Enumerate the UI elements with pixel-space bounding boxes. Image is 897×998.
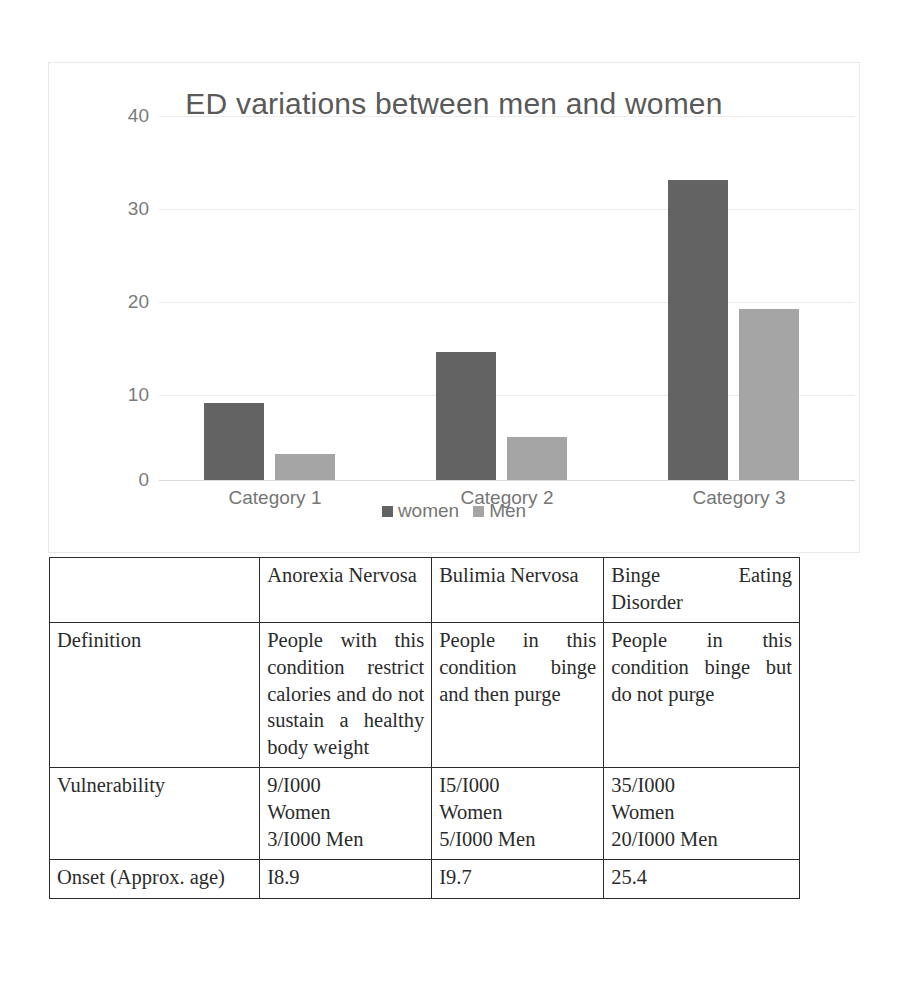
row-label-definition: Definition xyxy=(50,623,260,768)
legend-label-men: Men xyxy=(489,500,526,522)
vulnerability-binge-line-2: Women xyxy=(611,799,792,826)
bar-men-category-1 xyxy=(275,454,335,480)
vulnerability-anorexia-line-1: 9/I000 xyxy=(267,772,424,799)
y-tick-40: 40 xyxy=(89,105,149,127)
cell-definition-bulimia: People in this condition binge and then … xyxy=(432,623,604,768)
bar-women-category-1 xyxy=(204,403,264,480)
cell-onset-anorexia: I8.9 xyxy=(260,860,432,899)
gridline-40 xyxy=(159,116,855,117)
legend-label-women: women xyxy=(398,500,459,522)
bar-women-category-3 xyxy=(668,180,728,480)
eating-disorder-comparison-table: Anorexia Nervosa Bulimia Nervosa Binge E… xyxy=(49,557,800,899)
vulnerability-binge-line-1: 35/I000 xyxy=(611,772,792,799)
legend-swatch-men-icon xyxy=(473,506,484,517)
chart-panel: ED variations between men and women 0 10… xyxy=(48,62,860,553)
vulnerability-anorexia-line-2: Women xyxy=(267,799,424,826)
header-cell-bulimia: Bulimia Nervosa xyxy=(432,558,604,623)
table-row-onset: Onset (Approx. age) I8.9 I9.7 25.4 xyxy=(50,860,800,899)
bar-men-category-2 xyxy=(507,437,567,480)
table-row-definition: Definition People with this condition re… xyxy=(50,623,800,768)
table-row-vulnerability: Vulnerability 9/I000 Women 3/I000 Men I5… xyxy=(50,768,800,860)
cell-onset-binge: 25.4 xyxy=(604,860,800,899)
y-tick-10: 10 xyxy=(89,384,149,406)
cell-vulnerability-bulimia: I5/I000 Women 5/I000 Men xyxy=(432,768,604,860)
gridline-20 xyxy=(159,302,855,303)
y-tick-0: 0 xyxy=(89,469,149,491)
table-header-row: Anorexia Nervosa Bulimia Nervosa Binge E… xyxy=(50,558,800,623)
vulnerability-bulimia-line-2: Women xyxy=(439,799,596,826)
chart-legend: women Men xyxy=(49,500,859,522)
header-cell-blank xyxy=(50,558,260,623)
y-tick-20: 20 xyxy=(89,291,149,313)
cell-onset-bulimia: I9.7 xyxy=(432,860,604,899)
header-cell-binge: Binge Eating Disorder xyxy=(604,558,800,623)
gridline-30 xyxy=(159,209,855,210)
header-cell-anorexia: Anorexia Nervosa xyxy=(260,558,432,623)
y-axis: 0 10 20 30 40 xyxy=(79,115,149,480)
vulnerability-binge-line-3: 20/I000 Men xyxy=(611,826,792,853)
y-tick-30: 30 xyxy=(89,198,149,220)
vulnerability-bulimia-line-3: 5/I000 Men xyxy=(439,826,596,853)
row-label-vulnerability: Vulnerability xyxy=(50,768,260,860)
gridline-0 xyxy=(159,480,855,481)
bar-men-category-3 xyxy=(739,309,799,480)
legend-entry-men[interactable]: Men xyxy=(473,500,526,522)
vulnerability-anorexia-line-3: 3/I000 Men xyxy=(267,826,424,853)
cell-vulnerability-binge: 35/I000 Women 20/I000 Men xyxy=(604,768,800,860)
cell-definition-binge: People in this condition binge but do no… xyxy=(604,623,800,768)
bar-women-category-2 xyxy=(436,352,496,480)
legend-swatch-women-icon xyxy=(382,506,393,517)
plot-area xyxy=(159,115,855,480)
cell-definition-anorexia: People with this condition restrict calo… xyxy=(260,623,432,768)
cell-vulnerability-anorexia: 9/I000 Women 3/I000 Men xyxy=(260,768,432,860)
legend-entry-women[interactable]: women xyxy=(382,500,459,522)
vulnerability-bulimia-line-1: I5/I000 xyxy=(439,772,596,799)
row-label-onset: Onset (Approx. age) xyxy=(50,860,260,899)
